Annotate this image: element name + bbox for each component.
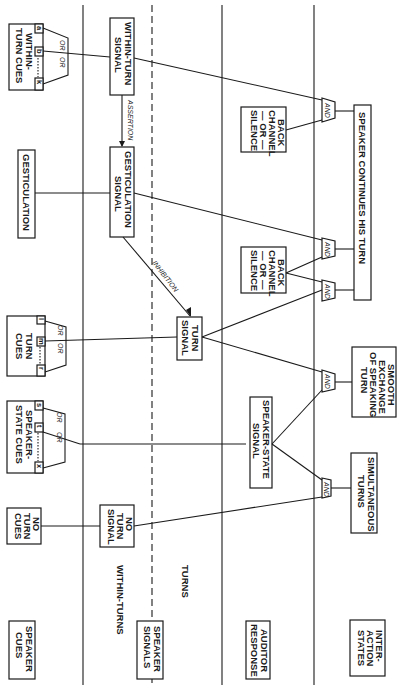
within-turns-label-1: WITHIN-TURNS (115, 565, 126, 635)
smooth-exchange-box: SMOOTH EXCHANGE OF SPEAKING TURN (352, 347, 397, 417)
within-turn-signal-label-2: SIGNAL (113, 37, 124, 73)
gesticulation-signal-label-2: SIGNAL (113, 176, 124, 212)
speaker-continues-label: SPEAKER CONTINUES HIS TURN (357, 112, 368, 264)
speaker-state-cues-label-2: STATE CUES (14, 405, 25, 464)
no-turn-cues-box: NO TURN CUES (7, 508, 42, 544)
auditor-response-header: AUDITOR RESPONSE (246, 621, 270, 679)
smooth-exchange-line-4: TURN (359, 367, 370, 394)
and-gate-2: AND (322, 238, 335, 259)
inhibition-label: INHIBITION (151, 259, 180, 293)
auditor-response-header-label-2: RESPONSE (249, 624, 260, 677)
or-gate-within-turn (43, 28, 68, 84)
cue-key-l: l (37, 318, 46, 320)
and-gate-5: AND (322, 478, 331, 498)
cue-key-m: m (37, 338, 46, 345)
simultaneous-turns-line-2: TURNS (356, 475, 367, 508)
no-turn-signal-box: NO TURN SIGNAL (100, 505, 135, 547)
turn-signal-label-2: SIGNAL (180, 320, 191, 356)
and-gate-1: AND (322, 98, 335, 122)
speaker-cues-header: SPEAKER CUES (9, 621, 35, 679)
turn-cues-box: l m r TURN CUES (7, 316, 46, 376)
back-channel-box-2: BACK CHANNEL — OR — SILENCE (241, 247, 287, 297)
and-gate-4: AND (322, 370, 335, 392)
gesticulation-cue-box: GESTICULATION (18, 150, 35, 238)
or-gate-label: OR (59, 40, 66, 51)
turns-label: TURNS (180, 565, 191, 598)
speaker-state-signal-box: SPEAKER-STATE SIGNAL (250, 397, 272, 488)
interaction-states-header-label-3: STATES (356, 630, 367, 666)
and-gate-label: AND (323, 481, 330, 497)
interaction-states-header: INTER- ACTION STATES (350, 620, 385, 676)
turn-signal-box: TURN SIGNAL (177, 317, 202, 360)
and-gate-label: AND (324, 373, 331, 389)
assertion-label: ASSERTION (127, 99, 134, 141)
within-turn-cues-box: a b k WITHIN- TURN CUES (9, 24, 44, 90)
speaker-cues-header-label-2: CUES (14, 632, 25, 658)
cue-key-r: r (37, 367, 46, 370)
back-channel-2-line-4: SILENCE (249, 250, 260, 291)
back-channel-1-line-4: SILENCE (249, 110, 260, 151)
back-channel-box-1: BACK CHANNEL — OR — SILENCE (241, 107, 287, 157)
and-gate-label: AND (324, 102, 331, 118)
gesticulation-cue-label: GESTICULATION (21, 154, 32, 231)
or-gate-label: OR (57, 325, 64, 336)
cue-key-b: b (35, 49, 44, 54)
or-gate-label: OR (59, 57, 66, 68)
within-turn-signal-box: WITHIN-TURN SIGNAL (110, 18, 134, 95)
inhibition-arrow (123, 237, 190, 316)
speaker-signals-header-label-2: SIGNALS (142, 626, 153, 668)
turn-taking-diagram: a b k WITHIN- TURN CUES OR OR GESTICULAT… (0, 0, 403, 690)
no-turn-cues-label-3: CUES (13, 513, 24, 539)
no-turn-signal-label-3: SIGNAL (106, 509, 117, 545)
and-gate-label: AND (324, 241, 331, 257)
and-gate-label: AND (324, 283, 331, 299)
turn-cues-label-2: CUES (14, 333, 25, 359)
speaker-signals-header: SPEAKER SIGNALS (137, 621, 163, 679)
speaker-state-signal-label-2: SIGNAL (251, 423, 262, 459)
within-turn-cues-label-2: TURN CUES (14, 28, 25, 83)
arrowhead-icon (119, 141, 125, 147)
or-gate-label: OR (56, 412, 63, 423)
and-gate-3: AND (322, 280, 335, 301)
cue-key-s: s (35, 403, 44, 407)
speaker-continues-box: SPEAKER CONTINUES HIS TURN (354, 105, 371, 300)
or-gate-label: OR (57, 343, 64, 354)
simultaneous-turns-box: SIMULTANEOUS TURNS (351, 453, 377, 533)
gesticulation-signal-box: GESTICULATION SIGNAL (110, 147, 134, 237)
speaker-state-cues-box: s t x SPEAKER- STATE CUES (7, 401, 44, 473)
